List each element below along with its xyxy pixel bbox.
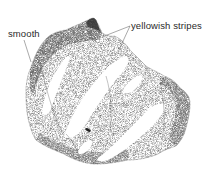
illustration-canvas: smooth yellowish stripes <box>0 0 205 180</box>
label-yellowish-stripes: yellowish stripes <box>131 21 202 31</box>
leader-smooth <box>24 40 31 62</box>
label-smooth: smooth <box>8 29 40 39</box>
